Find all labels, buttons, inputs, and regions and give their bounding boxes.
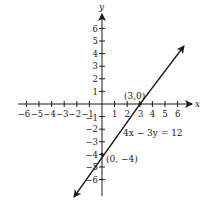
svg-text:−5: −5: [31, 109, 44, 119]
svg-text:−4: −4: [85, 150, 98, 160]
point-3-0: [138, 102, 141, 105]
label-point-0-neg4: (0, −4): [106, 154, 138, 164]
svg-text:2: 2: [124, 109, 129, 119]
svg-text:−2: −2: [85, 124, 98, 134]
svg-text:6: 6: [93, 24, 98, 34]
y-axis-label: y: [98, 2, 105, 12]
svg-text:4: 4: [150, 109, 155, 119]
x-axis-label: x: [195, 99, 200, 109]
svg-text:−6: −6: [18, 109, 31, 119]
svg-text:−2: −2: [69, 109, 82, 119]
label-point-3-0: (3,0): [124, 91, 145, 101]
svg-text:3: 3: [93, 61, 98, 71]
svg-text:−4: −4: [43, 109, 56, 119]
x-tick-labels: −6 −5 −4 −3 −2 −1 1 2 3 4 5 6: [18, 109, 181, 119]
svg-text:−1: −1: [85, 113, 98, 123]
svg-text:5: 5: [93, 36, 98, 46]
svg-text:4: 4: [93, 49, 98, 59]
svg-text:−3: −3: [56, 109, 69, 119]
equation-label: 4x − 3y = 12: [123, 128, 183, 138]
svg-text:5: 5: [162, 109, 167, 119]
svg-text:−3: −3: [85, 137, 98, 147]
svg-text:3: 3: [138, 109, 143, 119]
point-0-neg4: [100, 153, 103, 156]
coordinate-plane: x y −6 −5 −4 −3 −2 −1 1: [0, 0, 209, 215]
svg-text:1: 1: [93, 87, 98, 97]
svg-text:−6: −6: [85, 175, 98, 185]
svg-text:−5: −5: [85, 162, 98, 172]
svg-text:2: 2: [93, 74, 98, 84]
svg-text:6: 6: [175, 109, 180, 119]
line-4x-3y-12: [140, 46, 184, 104]
svg-text:1: 1: [112, 109, 117, 119]
